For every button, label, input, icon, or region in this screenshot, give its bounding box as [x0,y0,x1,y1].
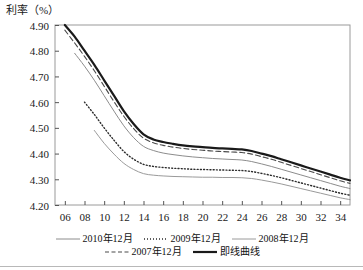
x-tick-label: 34 [335,211,347,223]
chart-svg: 4.904.804.704.604.504.404.304.2006081012… [0,0,363,232]
x-tick-label: 18 [178,211,190,223]
legend-item-label: 即线曲线 [220,246,260,258]
x-tick-label: 24 [237,211,249,223]
series-line [94,130,350,199]
series-line [65,30,350,183]
legend-row: 2010年12月2009年12月2008年12月 [55,233,309,245]
legend-item[interactable]: 2007年12月 [104,246,182,258]
y-tick-label: 4.30 [30,174,50,186]
x-tick-label: 16 [158,211,170,223]
y-tick-label: 4.90 [30,20,50,32]
legend-row: 2007年12月即线曲线 [104,246,260,258]
y-tick-label: 4.50 [30,122,50,134]
x-tick-label: 30 [296,211,308,223]
series-line [65,25,350,180]
x-tick-label: 22 [217,211,228,223]
plot-frame [55,25,350,205]
legend-item[interactable]: 2009年12月 [143,233,221,245]
bottom-divider [0,266,363,267]
legend-item-label: 2008年12月 [259,233,309,245]
x-tick-label: 12 [119,211,130,223]
x-tick-label: 10 [99,211,111,223]
y-tick-label: 4.80 [30,45,50,57]
legend-line-swatch [231,234,257,244]
legend-line-swatch [143,234,169,244]
x-tick-label: 26 [257,211,269,223]
legend-item[interactable]: 2008年12月 [231,233,309,245]
legend-item[interactable]: 即线曲线 [192,246,260,258]
y-tick-label: 4.70 [30,71,50,83]
x-tick-label: 14 [139,211,151,223]
x-tick-label: 32 [316,211,327,223]
legend-line-swatch [192,247,218,257]
legend-line-swatch [104,247,130,257]
y-tick-label: 4.20 [30,200,50,212]
x-tick-label: 08 [80,211,92,223]
legend-line-swatch [55,234,81,244]
plot-area: 4.904.804.704.604.504.404.304.2006081012… [0,0,363,232]
legend-item[interactable]: 2010年12月 [55,233,133,245]
x-tick-label: 20 [198,211,210,223]
y-tick-label: 4.40 [30,148,50,160]
legend-item-label: 2009年12月 [171,233,221,245]
legend-item-label: 2010年12月 [83,233,133,245]
yield-curve-figure: 利率（%） 4.904.804.704.604.504.404.304.2006… [0,0,363,270]
x-tick-label: 28 [276,211,288,223]
x-tick-label: 06 [60,211,72,223]
legend-item-label: 2007年12月 [132,246,182,258]
chart-legend: 2010年12月2009年12月2008年12月2007年12月即线曲线 [0,233,363,266]
y-tick-label: 4.60 [30,97,50,109]
